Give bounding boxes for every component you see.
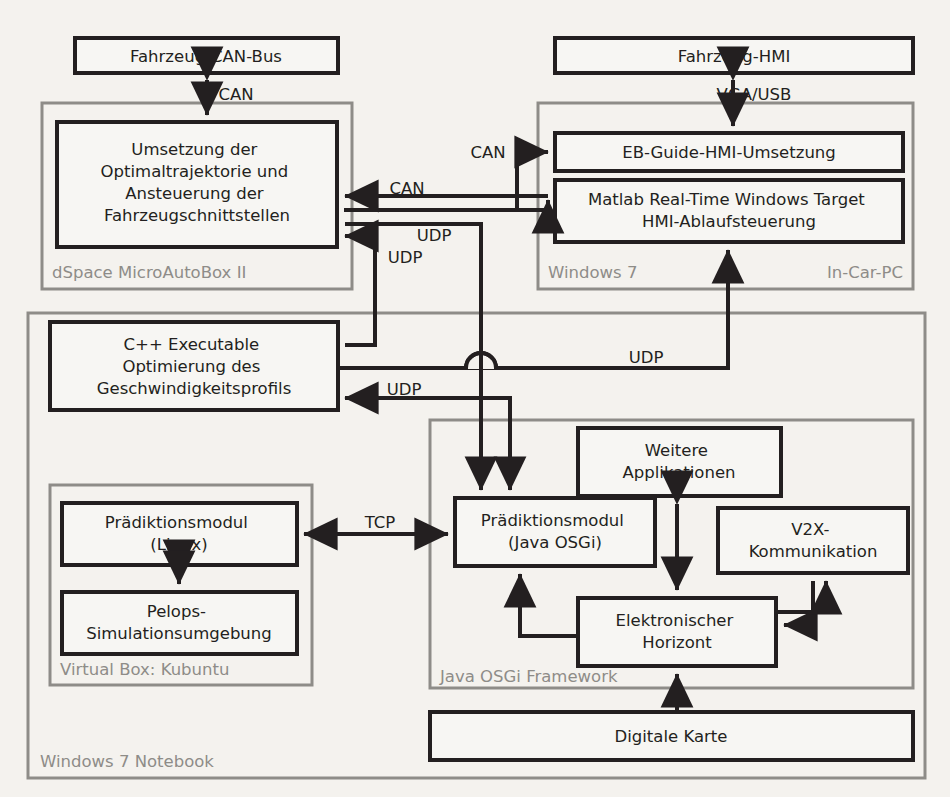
edge-label-can-main: CAN [389,179,424,198]
box-label-fahrzeug-hmi: Fahrzeug-HMI [678,46,791,65]
arrow-can-branch-ebguide [517,152,548,208]
arrow-v2x-to-ehorizont [784,581,813,625]
container-label-virtual-box: Virtual Box: Kubuntu [60,660,229,679]
architecture-diagram: Fahrzeug-CAN-Bus Umsetzung der Optimaltr… [0,0,950,797]
edge-label-can-branch: CAN [470,143,505,162]
container-label-windows7: Windows 7 [548,263,637,282]
edge-label-udp-left: UDP [388,248,423,267]
edge-label-udp-back: UDP [387,380,422,399]
arrow-udp-cpp-to-matlab [338,250,728,368]
box-label-cpp: C++ Executable Optimierung des Geschwind… [97,335,291,398]
box-label-digitale-karte: Digitale Karte [615,727,728,746]
edge-label-vga-usb: VGA/USB [717,85,792,104]
container-label-in-car-pc: In-Car-PC [827,263,903,282]
edge-label-udp-right: UDP [629,348,664,367]
box-label-eb-guide: EB-Guide-HMI-Umsetzung [622,142,836,161]
arrow-udp-osgi-to-cpp [345,398,510,402]
box-label-can-bus: Fahrzeug-CAN-Bus [130,46,282,65]
container-label-windows7-notebook: Windows 7 Notebook [40,752,214,771]
edge-label-tcp: TCP [364,513,396,532]
container-label-java-osgi: Java OSGi Framework [439,667,618,686]
box-v2x[interactable] [718,508,908,573]
diagram-canvas: Fahrzeug-CAN-Bus Umsetzung der Optimaltr… [0,0,950,797]
edge-label-udp-up: UDP [417,226,452,245]
arrow-ehorizont-to-osgi [520,574,578,636]
edge-label-can-top: CAN [218,85,253,104]
arrow-ehorizont-to-v2x [776,581,826,612]
container-label-dspace: dSpace MicroAutoBox II [52,263,246,282]
